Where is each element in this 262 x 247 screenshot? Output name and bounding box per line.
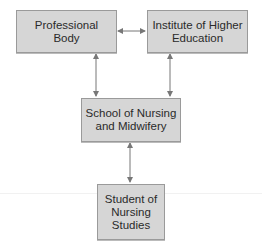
- node-label: Education: [152, 32, 242, 45]
- node-institute-of-higher-education: Institute of Higher Education: [147, 10, 248, 53]
- node-school-of-nursing: School of Nursing and Midwifery: [81, 98, 181, 142]
- node-professional-body: Professional Body: [16, 10, 117, 53]
- node-label: Student of: [105, 193, 157, 206]
- node-label: Professional: [35, 19, 98, 32]
- node-label: Body: [35, 32, 98, 45]
- node-label: School of Nursing: [86, 107, 177, 120]
- node-student-of-nursing-studies: Student of Nursing Studies: [97, 184, 165, 240]
- node-label: Nursing: [105, 206, 157, 219]
- node-label: and Midwifery: [86, 120, 177, 133]
- node-label: Studies: [105, 219, 157, 232]
- node-label: Institute of Higher: [152, 19, 242, 32]
